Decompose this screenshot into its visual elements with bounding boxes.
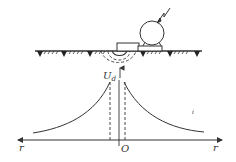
lightning-bolt-icon [157,8,170,23]
left-r-label: r [19,142,25,153]
ground-surface [35,51,202,57]
right-curve [124,82,204,132]
potential-distribution-diagram: Ud r r O i [0,0,236,162]
left-curve [33,82,110,133]
equipotential-hemispheres [101,51,136,62]
inner-hemisphere [112,51,127,56]
motor-circle-icon [140,21,164,45]
origin-label: O [121,143,129,154]
stray-mark: i [192,108,194,115]
motor-equipment [138,21,164,51]
motor-base [138,46,162,51]
right-r-label: r [213,142,219,153]
grounding-electrode-box [117,43,139,51]
potential-distribution-curve [33,82,204,133]
potential-label: Ud [103,70,116,83]
